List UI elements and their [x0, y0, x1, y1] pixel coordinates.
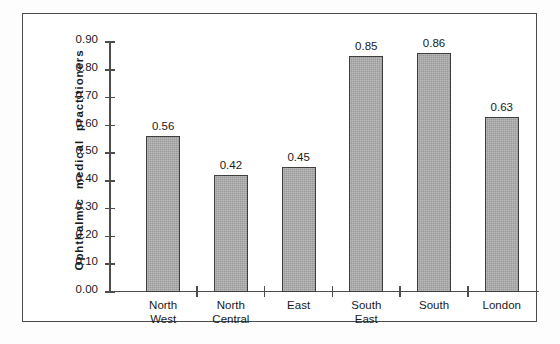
y-axis-tick-label: 0.20 — [76, 228, 98, 240]
y-axis-tick-label: 0.90 — [76, 33, 98, 45]
y-axis-tick-label: 0.00 — [76, 283, 98, 295]
x-axis-category-label: North West — [129, 298, 197, 326]
bar-value-label: 0.63 — [491, 101, 513, 113]
bar-value-label: 0.56 — [152, 120, 174, 132]
bar: 0.42 — [214, 175, 248, 292]
plot-area: 0.900.800.700.600.500.400.300.200.100.00… — [109, 42, 539, 292]
x-axis-category-label: South — [400, 298, 468, 312]
x-axis-tick — [399, 286, 401, 297]
x-axis-tick — [264, 286, 266, 297]
y-axis-tick: 0.70 — [105, 97, 115, 99]
y-axis-tick-label: 0.70 — [76, 89, 98, 101]
bar: 0.63 — [485, 117, 519, 292]
y-axis-line — [109, 42, 111, 292]
bar-value-label: 0.86 — [423, 37, 445, 49]
x-axis-category-label: East — [265, 298, 333, 312]
y-axis-tick: 0.60 — [105, 125, 115, 127]
bar: 0.85 — [349, 56, 383, 292]
bar: 0.86 — [417, 53, 451, 292]
y-axis-tick: 0.40 — [105, 180, 115, 182]
y-axis-tick: 0.30 — [105, 208, 115, 210]
y-axis-tick: 0.50 — [105, 152, 115, 154]
bar-value-label: 0.42 — [220, 159, 242, 171]
x-axis-tick — [196, 286, 198, 297]
x-axis-tick — [332, 286, 334, 297]
bar: 0.45 — [282, 167, 316, 292]
y-axis-tick: 0.90 — [105, 41, 115, 43]
x-axis-category-label: South East — [332, 298, 400, 326]
y-axis-tick: 0.80 — [105, 69, 115, 71]
y-axis-tick: 0.10 — [105, 263, 115, 265]
y-axis-tick-label: 0.80 — [76, 61, 98, 73]
y-axis-tick-label: 0.50 — [76, 144, 98, 156]
x-axis-category-label: London — [468, 298, 536, 312]
y-axis-tick: 0.20 — [105, 236, 115, 238]
bar: 0.56 — [146, 136, 180, 292]
chart-frame-border: Ophthalmic medical practitioners 0.900.8… — [22, 13, 537, 322]
bar-value-label: 0.45 — [287, 151, 309, 163]
y-axis-tick-label: 0.10 — [76, 255, 98, 267]
y-axis-tick: 0.00 — [105, 291, 115, 293]
chart-page: Ophthalmic medical practitioners 0.900.8… — [0, 0, 560, 344]
y-axis-tick-label: 0.40 — [76, 172, 98, 184]
bar-value-label: 0.85 — [355, 40, 377, 52]
y-axis-tick-label: 0.30 — [76, 200, 98, 212]
y-axis-tick-label: 0.60 — [76, 117, 98, 129]
x-axis-tick — [467, 286, 469, 297]
x-axis-category-label: North Central — [197, 298, 265, 326]
